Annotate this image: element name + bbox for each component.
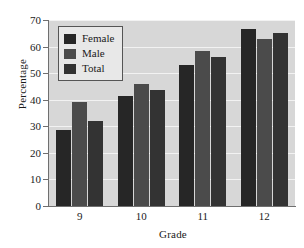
bar-total-grade-12 [273, 33, 288, 206]
bar-male-grade-12 [257, 39, 272, 206]
bar-female-grade-10 [118, 96, 133, 206]
legend-item-total: Total [64, 61, 114, 76]
legend-swatch-total-icon [64, 64, 76, 74]
x-tick-label-11: 11 [183, 210, 223, 222]
x-tick-label-10: 10 [121, 210, 161, 222]
bar-female-grade-9 [56, 130, 71, 206]
y-tick-mark [43, 100, 49, 101]
y-tick-label: 40 [1, 94, 41, 106]
bar-male-grade-11 [195, 51, 210, 206]
y-tick-label: 20 [1, 147, 41, 159]
legend-item-female: Female [64, 31, 114, 46]
bar-female-grade-11 [179, 65, 194, 206]
y-tick-mark [43, 206, 49, 207]
bar-total-grade-9 [88, 121, 103, 206]
bar-female-grade-12 [241, 29, 256, 206]
gridline [49, 20, 295, 21]
y-tick-mark [43, 47, 49, 48]
y-tick-label: 60 [1, 41, 41, 53]
y-tick-label: 70 [1, 14, 41, 26]
bar-male-grade-10 [134, 84, 149, 206]
y-tick-mark [43, 179, 49, 180]
y-tick-label: 10 [1, 173, 41, 185]
x-axis-line [48, 206, 296, 207]
chart-legend: FemaleMaleTotal [58, 26, 123, 81]
y-axis-tick-labels: 010203040506070 [0, 0, 41, 248]
y-tick-mark [43, 126, 49, 127]
bar-male-grade-9 [72, 102, 87, 206]
legend-swatch-female-icon [64, 34, 76, 44]
legend-label: Male [82, 48, 105, 59]
legend-item-male: Male [64, 46, 114, 61]
y-tick-mark [43, 73, 49, 74]
y-tick-label: 30 [1, 120, 41, 132]
y-tick-mark [43, 153, 49, 154]
y-tick-label: 50 [1, 67, 41, 79]
x-axis-title: Grade [48, 228, 298, 240]
y-tick-mark [43, 20, 49, 21]
legend-label: Female [82, 33, 114, 44]
bar-total-grade-10 [150, 90, 165, 206]
bar-total-grade-11 [211, 57, 226, 206]
x-tick-label-9: 9 [60, 210, 100, 222]
x-tick-label-12: 12 [244, 210, 284, 222]
legend-swatch-male-icon [64, 49, 76, 59]
legend-label: Total [82, 63, 104, 74]
y-tick-label: 0 [1, 200, 41, 212]
bar-chart-figure: Percentage 010203040506070 9101112 Grade… [0, 0, 304, 248]
